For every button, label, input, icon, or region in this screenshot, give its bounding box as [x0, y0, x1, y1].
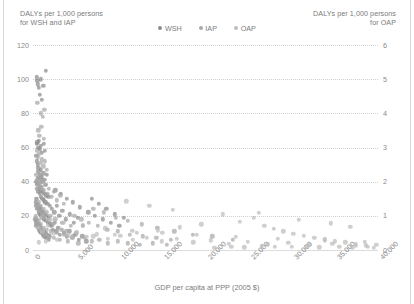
scatter-point-wsh	[37, 92, 41, 96]
scatter-point-wsh	[39, 97, 43, 101]
left-border-rule	[3, 0, 4, 304]
y-tick-label-right: 4	[383, 110, 387, 117]
x-tick-label: 40,000	[378, 239, 400, 261]
scatter-point-oap	[229, 244, 233, 248]
scatter-point-oap	[113, 233, 117, 237]
scatter-point-wsh	[41, 84, 45, 88]
scatter-point-oap	[51, 231, 55, 235]
scatter-point-wsh	[52, 210, 56, 214]
scatter-point-oap	[305, 244, 309, 248]
scatter-point-iap	[151, 241, 155, 245]
scatter-point-wsh	[43, 149, 47, 153]
scatter-point-wsh	[101, 217, 105, 221]
scatter-point-wsh	[39, 77, 43, 81]
y-tick-label-left: 20	[21, 212, 29, 219]
scatter-point-oap	[271, 227, 275, 231]
left-y-axis-title: DALYs per 1,000 persons for WSH and IAP	[20, 9, 103, 28]
scatter-point-oap	[246, 240, 250, 244]
scatter-point-wsh	[108, 220, 112, 224]
scatter-point-oap	[44, 239, 48, 243]
scatter-point-oap	[291, 231, 295, 235]
scatter-point-wsh	[86, 210, 90, 214]
scatter-point-oap	[70, 236, 74, 240]
scatter-point-oap	[238, 220, 242, 224]
scatter-point-iap	[51, 190, 55, 194]
scatter-point-iap	[169, 238, 173, 242]
scatter-point-iap	[36, 128, 40, 132]
y-tick-label-left: 120	[17, 42, 29, 49]
y-tick-label-left: 60	[21, 144, 29, 151]
chart-frame: DALYs per 1,000 persons for WSH and IAP …	[0, 0, 414, 304]
y-tick-label-right: 6	[383, 42, 387, 49]
scatter-point-iap	[126, 219, 130, 223]
scatter-point-oap	[81, 223, 85, 227]
scatter-point-iap	[87, 220, 91, 224]
scatter-point-oap	[259, 244, 263, 248]
scatter-point-wsh	[96, 202, 100, 206]
scatter-point-wsh	[67, 212, 71, 216]
scatter-point-wsh	[117, 224, 121, 228]
scatter-point-wsh	[84, 239, 88, 243]
scatter-point-oap	[265, 242, 269, 246]
legend-label: IAP	[205, 24, 217, 33]
scatter-point-iap	[53, 217, 57, 221]
scatter-point-iap	[102, 210, 106, 214]
scatter-point-oap	[191, 240, 195, 244]
scatter-point-iap	[89, 239, 93, 243]
scatter-point-oap	[159, 239, 163, 243]
scatter-point-oap	[131, 238, 135, 242]
scatter-point-oap	[272, 244, 276, 248]
legend-label: WSH	[165, 24, 182, 33]
scatter-point-oap	[350, 245, 354, 249]
scatter-point-oap	[290, 245, 294, 249]
scatter-point-wsh	[70, 200, 74, 204]
legend-item-wsh[interactable]: WSH	[158, 24, 181, 33]
y-tick-label-left: 40	[21, 178, 29, 185]
scatter-point-oap	[147, 203, 151, 207]
scatter-point-oap	[262, 224, 266, 228]
scatter-point-oap	[171, 207, 175, 211]
scatter-point-oap	[91, 234, 95, 238]
scatter-point-wsh	[42, 142, 46, 146]
plot-area: 020406080100120 0123456 05,00010,00015,0…	[33, 45, 378, 250]
scatter-point-iap	[39, 125, 43, 129]
scatter-point-iap	[50, 222, 54, 226]
scatter-point-iap	[91, 207, 95, 211]
y-tick-label-right: 1	[383, 212, 387, 219]
scatter-point-oap	[242, 245, 246, 249]
scatter-point-iap	[37, 152, 41, 156]
scatter-point-oap	[302, 233, 306, 237]
scatter-point-oap	[281, 229, 285, 233]
scatter-point-oap	[257, 211, 261, 215]
scatter-point-iap	[115, 239, 119, 243]
scatter-point-oap	[118, 234, 122, 238]
scatter-point-wsh	[60, 209, 64, 213]
scatter-point-oap	[75, 230, 79, 234]
scatter-point-iap	[49, 195, 53, 199]
scatter-point-iap	[62, 202, 66, 206]
y-tick-label-right: 5	[383, 76, 387, 83]
scatter-point-iap	[55, 198, 59, 202]
legend-label: OAP	[241, 24, 256, 33]
scatter-point-oap	[37, 240, 41, 244]
legend-item-oap[interactable]: OAP	[234, 24, 256, 33]
scatter-point-oap	[233, 235, 237, 239]
scatter-point-oap	[212, 245, 216, 249]
scatter-point-oap	[160, 231, 164, 235]
legend-item-iap[interactable]: IAP	[199, 24, 217, 33]
scatter-point-oap	[276, 237, 280, 241]
scatter-point-iap	[47, 186, 51, 190]
scatter-point-iap	[97, 238, 101, 242]
scatter-point-wsh	[89, 197, 93, 201]
scatter-point-oap	[124, 199, 128, 203]
scatter-point-wsh	[64, 197, 68, 201]
scatter-point-iap	[58, 193, 62, 197]
scatter-point-oap	[317, 245, 321, 249]
scatter-point-oap	[343, 240, 347, 244]
scatter-point-iap	[41, 115, 45, 119]
scatter-point-iap	[42, 108, 46, 112]
scatter-point-iap	[139, 222, 143, 226]
scatter-point-iap	[172, 229, 176, 233]
scatter-point-wsh	[45, 173, 49, 177]
scatter-point-iap	[43, 159, 47, 163]
